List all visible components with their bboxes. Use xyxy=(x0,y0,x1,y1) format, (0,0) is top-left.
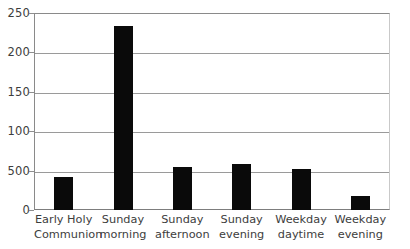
x-tick-label-line: Early Holy xyxy=(34,213,93,228)
x-tick-label: Sundaymorning xyxy=(93,213,152,242)
x-tick-label: Weekdaydaytime xyxy=(271,213,330,242)
x-axis: Early HolyCommunionSundaymorningSundayaf… xyxy=(34,213,390,249)
x-tick-label: Weekdayevening xyxy=(331,213,390,242)
x-tick-label-line: afternoon xyxy=(153,228,212,243)
x-tick-label-line: Communion xyxy=(34,228,93,243)
y-tick-mark xyxy=(29,131,34,132)
x-tick-label: Sundayevening xyxy=(212,213,271,242)
bar xyxy=(232,164,251,210)
bar xyxy=(173,167,192,210)
y-tick-mark xyxy=(29,92,34,93)
x-tick-label-line: Sunday xyxy=(212,213,271,228)
y-tick-mark xyxy=(29,13,34,14)
bar xyxy=(114,26,133,210)
y-tick-mark xyxy=(29,52,34,53)
y-tick-label: 0 xyxy=(0,204,30,216)
x-tick-label-line: evening xyxy=(212,228,271,243)
y-tick-label: 200 xyxy=(0,46,30,58)
y-tick-label: 500 xyxy=(0,165,30,177)
y-tick-mark xyxy=(29,171,34,172)
x-tick-label: Sundayafternoon xyxy=(153,213,212,242)
x-tick-label-line: Sunday xyxy=(93,213,152,228)
x-tick-label-line: daytime xyxy=(271,228,330,243)
x-tick-label-line: morning xyxy=(93,228,152,243)
x-tick-label-line: Sunday xyxy=(153,213,212,228)
y-tick-label: 100 xyxy=(0,125,30,137)
bar-chart-figure: 2502001501005000 Early HolyCommunionSund… xyxy=(0,0,410,249)
bar xyxy=(54,177,73,210)
x-tick-label-line: Weekday xyxy=(331,213,390,228)
x-tick-label-line: evening xyxy=(331,228,390,243)
y-tick-label: 150 xyxy=(0,86,30,98)
x-tick-label-line: Weekday xyxy=(271,213,330,228)
y-tick-label: 250 xyxy=(0,7,30,19)
y-tick-mark xyxy=(29,210,34,211)
bar xyxy=(351,196,370,210)
bars-layer xyxy=(34,13,390,210)
y-axis: 2502001501005000 xyxy=(0,0,30,249)
bar xyxy=(292,169,311,210)
x-tick-label: Early HolyCommunion xyxy=(34,213,93,242)
